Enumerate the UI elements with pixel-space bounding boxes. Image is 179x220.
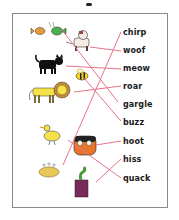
- word-roar: roar: [123, 82, 142, 91]
- word-chirp: chirp: [123, 28, 146, 37]
- word-hoot: hoot: [123, 137, 144, 146]
- word-woof: woof: [123, 46, 145, 55]
- word-buzz: buzz: [123, 118, 144, 127]
- title-mark: [86, 3, 92, 6]
- word-gargle: gargle: [123, 100, 153, 109]
- word-hiss: hiss: [123, 155, 141, 164]
- word-meow: meow: [123, 64, 150, 73]
- word-quack: quack: [123, 174, 150, 183]
